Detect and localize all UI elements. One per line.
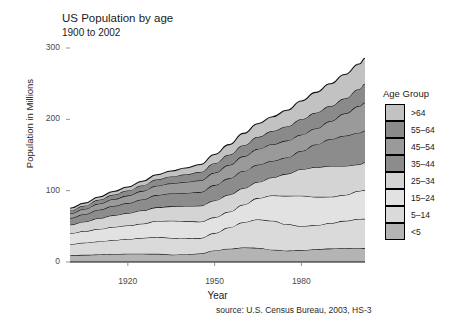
legend-item-55-64[interactable]: 55–64	[385, 121, 465, 139]
legend-label: <5	[411, 227, 421, 237]
legend-item-25-34[interactable]: 25–34	[385, 172, 465, 190]
legend-label: >64	[411, 108, 425, 118]
legend-label: 55–64	[411, 125, 435, 135]
legend-title: Age Group	[383, 88, 429, 99]
legend-item->64[interactable]: >64	[385, 104, 465, 122]
legend-swatch	[385, 223, 405, 240]
legend-item-15-24[interactable]: 15–24	[385, 189, 465, 207]
legend-item-5-14[interactable]: 5–14	[385, 206, 465, 224]
legend-swatch	[385, 172, 405, 189]
legend-swatch	[385, 189, 405, 206]
legend-label: 5–14	[411, 210, 430, 220]
legend-item-35-44[interactable]: 35–44	[385, 155, 465, 173]
legend-item-45-54[interactable]: 45–54	[385, 138, 465, 156]
legend-label: 25–34	[411, 176, 435, 186]
legend-swatch	[385, 104, 405, 121]
legend-swatch	[385, 155, 405, 172]
legend-swatch	[385, 206, 405, 223]
legend-label: 45–54	[411, 142, 435, 152]
chart-figure: US Population by age 1900 to 2002 Popula…	[0, 0, 470, 325]
legend-item-<5[interactable]: <5	[385, 223, 465, 241]
legend-swatch	[385, 121, 405, 138]
legend-swatch	[385, 138, 405, 155]
stacked-areas	[70, 58, 365, 262]
legend-label: 15–24	[411, 193, 435, 203]
legend-label: 35–44	[411, 159, 435, 169]
